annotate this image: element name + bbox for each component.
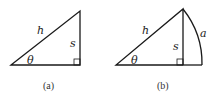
figure-a: h s θ (a) bbox=[11, 11, 80, 92]
label-s-b: s bbox=[173, 40, 179, 53]
label-s-a: s bbox=[70, 37, 76, 50]
label-theta-b: θ bbox=[131, 54, 138, 67]
caption-a: (a) bbox=[43, 80, 54, 92]
right-angle-marker-a bbox=[74, 59, 80, 65]
label-theta-a: θ bbox=[27, 54, 34, 67]
label-h-b: h bbox=[142, 24, 149, 37]
right-angle-marker-b bbox=[177, 59, 183, 65]
figure-b: h s θ a (b) bbox=[116, 9, 207, 92]
label-h-a: h bbox=[37, 24, 44, 37]
caption-b: (b) bbox=[157, 80, 169, 92]
label-a-b: a bbox=[200, 27, 207, 40]
triangle-b bbox=[116, 9, 183, 65]
diagram-canvas: h s θ (a) h s θ a (b) bbox=[0, 0, 213, 100]
